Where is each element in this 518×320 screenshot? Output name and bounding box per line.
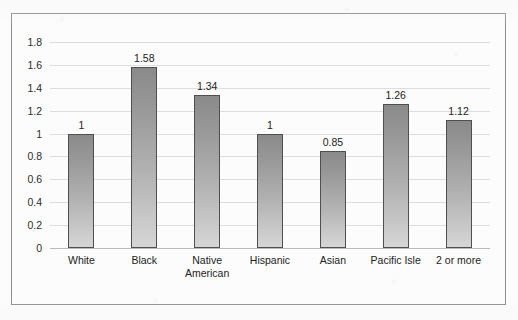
x-axis-category-label: Asian <box>301 254 364 267</box>
bar-value-label: 1.34 <box>197 80 217 92</box>
bar[interactable] <box>320 151 346 248</box>
x-axis-category-label: 2 or more <box>427 254 490 267</box>
bar[interactable] <box>194 95 220 248</box>
bar[interactable] <box>446 120 472 248</box>
y-axis-tick-label: 1 <box>0 128 42 140</box>
bars-group: 11.581.3410.851.261.12 <box>50 42 490 248</box>
bar-value-label: 1.12 <box>448 105 468 117</box>
bar[interactable] <box>68 134 94 248</box>
bar-slot: 1.26 <box>364 42 427 248</box>
bar-slot: 1.34 <box>176 42 239 248</box>
y-axis-tick-label: 1.2 <box>0 105 42 117</box>
y-axis-tick-label: 0.2 <box>0 219 42 231</box>
y-axis-tick-label: 1.8 <box>0 36 42 48</box>
bar-slot: 1.12 <box>427 42 490 248</box>
bar-slot: 0.85 <box>301 42 364 248</box>
bar-value-label: 1 <box>267 119 273 131</box>
x-axis-category-label: Black <box>113 254 176 267</box>
bar-value-label: 1 <box>79 119 85 131</box>
bar[interactable] <box>383 104 409 248</box>
y-axis-tick-label: 1.4 <box>0 82 42 94</box>
bar-value-label: 1.58 <box>134 52 154 64</box>
bar[interactable] <box>257 134 283 248</box>
x-axis-category-label: White <box>50 254 113 267</box>
y-axis-tick-label: 0.6 <box>0 173 42 185</box>
x-axis-category-label: Pacific Isle <box>364 254 427 267</box>
y-axis-tick-label: 0 <box>0 242 42 254</box>
bar-slot: 1 <box>239 42 302 248</box>
x-axis-category-label: Hispanic <box>239 254 302 267</box>
bar-value-label: 1.26 <box>385 89 405 101</box>
y-axis-tick-label: 0.8 <box>0 150 42 162</box>
bar[interactable] <box>131 67 157 248</box>
y-axis-tick-label: 0.4 <box>0 196 42 208</box>
bar-slot: 1.58 <box>113 42 176 248</box>
bar-value-label: 0.85 <box>323 136 343 148</box>
y-axis-tick-label: 1.6 <box>0 59 42 71</box>
bar-slot: 1 <box>50 42 113 248</box>
gridline <box>50 248 490 249</box>
x-axis-category-label: Native American <box>176 254 239 280</box>
